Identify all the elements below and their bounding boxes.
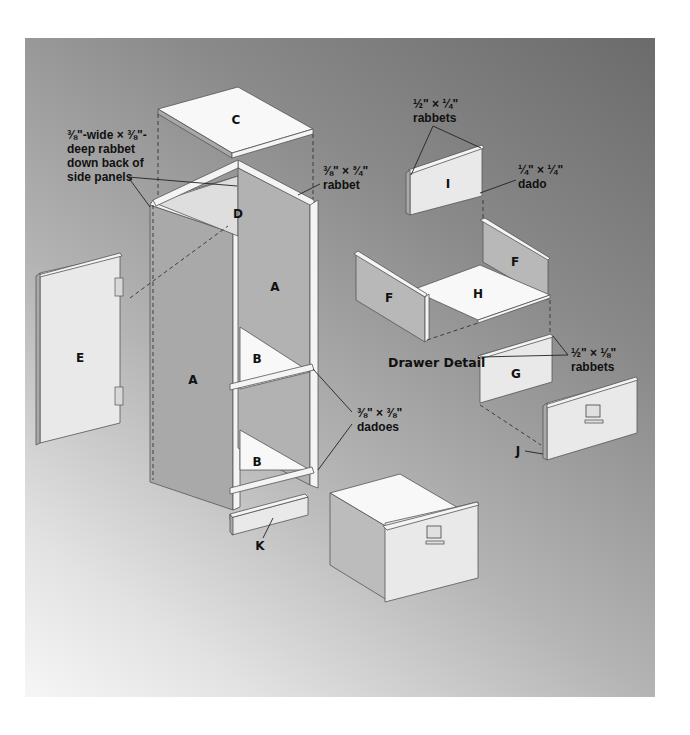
svg-text:½" × ¼": ½" × ¼" xyxy=(413,97,458,111)
svg-text:⅜" × ¾": ⅜" × ¾" xyxy=(323,164,368,178)
part-k-kick: K xyxy=(230,494,308,553)
annotation-dadoes: ⅜" × ⅜" dadoes xyxy=(313,369,402,470)
label-b-lower: B xyxy=(252,455,261,469)
svg-text:⅜"-wide × ⅜"-: ⅜"-wide × ⅜"- xyxy=(67,128,147,142)
drawer-pull-icon xyxy=(586,405,600,417)
label-k: K xyxy=(255,539,265,553)
svg-text:side panels: side panels xyxy=(67,170,133,184)
annotation-drawer-back-dado: ¼" × ¼" dado xyxy=(480,163,563,193)
label-j: J xyxy=(515,444,520,458)
label-c: C xyxy=(232,113,241,127)
drawer-detail-title: Drawer Detail xyxy=(388,355,485,370)
label-d: D xyxy=(233,207,243,221)
label-g: G xyxy=(511,367,521,381)
label-f-right: F xyxy=(511,255,519,269)
part-c-top-panel: C xyxy=(158,87,313,158)
svg-text:rabbets: rabbets xyxy=(413,111,457,125)
part-e-door: E xyxy=(36,253,123,445)
svg-text:⅜" × ⅜": ⅜" × ⅜" xyxy=(357,406,402,420)
svg-text:deep rabbet: deep rabbet xyxy=(67,142,135,156)
label-i: I xyxy=(446,177,450,191)
label-h: H xyxy=(473,287,483,301)
svg-text:rabbets: rabbets xyxy=(571,360,615,374)
label-e: E xyxy=(76,351,84,365)
svg-text:¼" × ¼": ¼" × ¼" xyxy=(518,163,563,177)
drawer-pull-icon xyxy=(427,526,441,538)
label-f-left: F xyxy=(385,291,393,305)
cabinet-case: A A D B B xyxy=(150,160,318,510)
svg-text:dadoes: dadoes xyxy=(357,420,399,434)
svg-text:½" × ⅛": ½" × ⅛" xyxy=(571,346,616,360)
exploded-diagram: C A A D B B xyxy=(0,0,690,735)
svg-text:down back of: down back of xyxy=(67,156,145,170)
label-a-left: A xyxy=(188,373,198,387)
left-side-panel xyxy=(150,205,233,510)
svg-text:rabbet: rabbet xyxy=(323,178,360,192)
diagram-stage: C A A D B B xyxy=(0,0,690,735)
hinge-icon xyxy=(115,278,123,296)
assembled-drawer xyxy=(330,474,479,602)
hinge-icon xyxy=(115,387,123,405)
label-a-right: A xyxy=(270,280,280,294)
label-b-upper: B xyxy=(252,352,261,366)
svg-text:dado: dado xyxy=(518,177,547,191)
annotation-top-rabbet: ⅜" × ¾" rabbet xyxy=(298,164,368,195)
